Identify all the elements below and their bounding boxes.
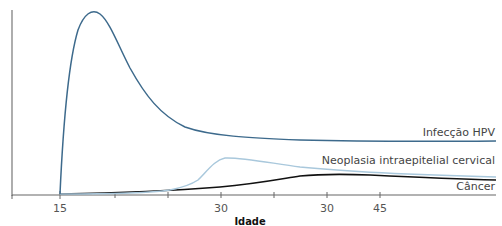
cancer-curve	[60, 174, 496, 194]
series-label-cancer: Câncer	[456, 180, 495, 193]
tick-label-45: 45	[373, 202, 387, 215]
series-label-cin: Neoplasia intraepitelial cervical	[322, 154, 495, 167]
tick-label-30-second: 30	[320, 202, 334, 215]
series-label-hpv: Infecção HPV	[423, 126, 496, 139]
tick-label-15: 15	[53, 202, 67, 215]
chart: 15 30 30 45 Idade Infecção HPV Neoplasia…	[0, 0, 502, 226]
tick-label-30: 30	[214, 202, 228, 215]
x-axis-label: Idade	[234, 215, 266, 226]
